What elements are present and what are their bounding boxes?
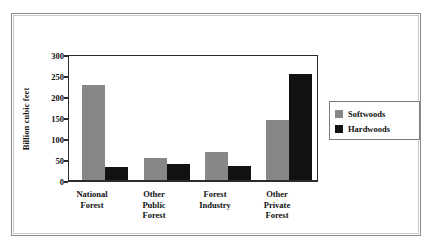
- bar-softwoods-other-public-forest: [144, 158, 167, 180]
- legend-label-hardwoods: Hardwoods: [348, 124, 390, 134]
- x-label-other-private-forest: Other Private Forest: [242, 189, 312, 221]
- bar-hardwoods-forest-industry: [228, 166, 251, 180]
- bar-hardwoods-national-forest: [105, 167, 128, 180]
- y-tick-label-50: 50: [38, 157, 64, 166]
- x-label-national-forest: National Forest: [57, 189, 127, 210]
- legend-item-hardwoods: Hardwoods: [335, 121, 419, 136]
- y-tick-label-200: 200: [38, 94, 64, 103]
- legend-swatch-softwoods-icon: [335, 110, 343, 118]
- legend-swatch-hardwoods-icon: [335, 125, 343, 133]
- y-tick-label-100: 100: [38, 136, 64, 145]
- y-tick-label-0: 0: [38, 178, 64, 187]
- legend-label-softwoods: Softwoods: [348, 109, 385, 119]
- plot-area: [68, 55, 318, 182]
- bar-hardwoods-other-public-forest: [167, 164, 190, 180]
- x-label-other-public-forest: Other Public Forest: [119, 189, 189, 221]
- y-axis-title: Billion cubic feet: [19, 60, 33, 178]
- y-tick-label-300: 300: [38, 52, 64, 61]
- y-axis-ticks: 0 50 100 150 200 250 300: [36, 0, 64, 251]
- bar-softwoods-other-private-forest: [266, 120, 289, 180]
- x-label-forest-industry: Forest Industry: [180, 189, 250, 210]
- bar-softwoods-forest-industry: [205, 152, 228, 180]
- legend-item-softwoods: Softwoods: [335, 106, 419, 121]
- bar-chart-figure: Billion cubic feet 0 50 100 150 200 250 …: [0, 0, 432, 251]
- bar-hardwoods-other-private-forest: [289, 74, 312, 180]
- y-tick-label-150: 150: [38, 115, 64, 124]
- y-tick-label-250: 250: [38, 73, 64, 82]
- bar-softwoods-national-forest: [82, 85, 105, 180]
- legend: Softwoods Hardwoods: [329, 101, 420, 140]
